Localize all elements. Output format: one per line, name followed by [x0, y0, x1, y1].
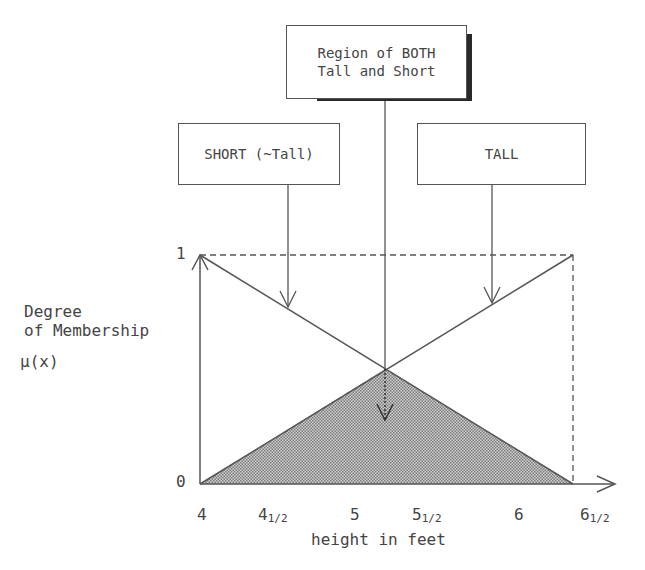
x-tick-whole: 5	[412, 505, 422, 524]
x-tick-whole: 4	[197, 505, 207, 524]
both-region-line1: Region of BOTH	[317, 44, 435, 62]
short-box-label: SHORT (~Tall)	[204, 145, 314, 163]
both-region-box: Region of BOTH Tall and Short	[286, 25, 467, 99]
x-tick-6: 6	[514, 505, 524, 525]
x-tick-4: 4	[197, 505, 207, 525]
both-region-line2: Tall and Short	[317, 62, 435, 80]
x-tick-frac: 1/2	[590, 512, 610, 525]
x-tick-frac: 1/2	[422, 512, 442, 525]
y-axis-label-line1: Degree	[24, 302, 82, 321]
x-tick-whole: 6	[580, 505, 590, 524]
x-tick-5-half: 51/2	[412, 505, 442, 525]
tall-box: TALL	[417, 123, 586, 185]
x-tick-whole: 6	[514, 505, 524, 524]
both-box-shadow-right	[467, 34, 472, 101]
x-tick-whole: 4	[258, 505, 268, 524]
y-axis-label-line2: of Membership	[24, 321, 149, 340]
x-tick-5: 5	[350, 505, 360, 525]
overlap-region	[200, 369, 573, 484]
x-tick-4-half: 41/2	[258, 505, 288, 525]
x-tick-whole: 5	[350, 505, 360, 524]
x-axis-label: height in feet	[311, 530, 446, 549]
tall-box-label: TALL	[485, 145, 519, 163]
short-box: SHORT (~Tall)	[178, 123, 340, 185]
x-tick-frac: 1/2	[268, 512, 288, 525]
y-axis-symbol: μ(x)	[20, 352, 59, 371]
y-tick-1: 1	[176, 244, 186, 263]
y-tick-0: 0	[176, 472, 186, 491]
x-tick-6-half: 61/2	[580, 505, 610, 525]
